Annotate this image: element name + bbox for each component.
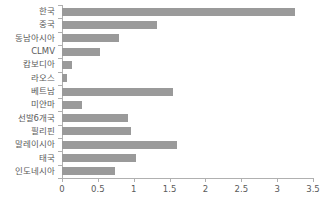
table-row (62, 112, 313, 125)
x-axis-tick (134, 178, 135, 182)
category-label: 베트남 (0, 85, 58, 98)
category-label: 선발6개국 (0, 112, 58, 125)
x-axis-tick-label: 0 (59, 184, 64, 194)
x-axis-tick-label: 0.5 (91, 184, 105, 194)
bar (62, 127, 131, 135)
bar (62, 8, 295, 16)
x-axis-tick (98, 178, 99, 182)
table-row (62, 138, 313, 151)
category-label: 중국 (0, 18, 58, 31)
bar-chart: 한국중국동남아시아CLMV캄보디아라오스베트남미얀마선발6개국필리핀말레이시아태… (0, 0, 331, 212)
y-axis-tick (58, 5, 62, 6)
x-axis-tick-label: 3 (274, 184, 279, 194)
y-axis-tick (58, 125, 62, 126)
x-axis-tick-label: 2.5 (235, 184, 249, 194)
y-axis-tick (58, 138, 62, 139)
y-axis-tick (58, 32, 62, 33)
y-axis-tick (58, 151, 62, 152)
x-axis-tick (277, 178, 278, 182)
x-axis-tick-label: 1 (131, 184, 136, 194)
y-axis-tick (58, 85, 62, 86)
y-axis-tick (58, 45, 62, 46)
category-axis-labels: 한국중국동남아시아CLMV캄보디아라오스베트남미얀마선발6개국필리핀말레이시아태… (0, 5, 58, 178)
category-label: 라오스 (0, 72, 58, 85)
table-row (62, 165, 313, 178)
table-row (62, 58, 313, 71)
category-label: 태국 (0, 151, 58, 164)
table-row (62, 32, 313, 45)
table-row (62, 85, 313, 98)
bar (62, 34, 119, 42)
category-label: 한국 (0, 5, 58, 18)
y-axis-tick (58, 72, 62, 73)
bar-rows (62, 5, 313, 178)
x-axis-tick (313, 178, 314, 182)
table-row (62, 5, 313, 18)
y-axis-tick (58, 58, 62, 59)
x-axis-tick-label: 3.5 (306, 184, 320, 194)
table-row (62, 151, 313, 164)
bar (62, 114, 128, 122)
category-label: 동남아시아 (0, 32, 58, 45)
table-row (62, 18, 313, 31)
bar (62, 101, 82, 109)
category-label: 캄보디아 (0, 58, 58, 71)
x-axis-tick (170, 178, 171, 182)
table-row (62, 72, 313, 85)
bar (62, 141, 177, 149)
y-axis-tick (58, 98, 62, 99)
table-row (62, 98, 313, 111)
x-axis-tick-label: 1.5 (163, 184, 177, 194)
bar (62, 167, 115, 175)
bar (62, 88, 173, 96)
category-label: 필리핀 (0, 125, 58, 138)
y-axis-tick (58, 111, 62, 112)
category-label: CLMV (0, 45, 58, 58)
x-axis-tick (241, 178, 242, 182)
category-label: 미얀마 (0, 98, 58, 111)
table-row (62, 45, 313, 58)
x-axis-tick (62, 178, 63, 182)
bar (62, 48, 100, 56)
x-axis-tick-label: 2 (203, 184, 208, 194)
y-axis-tick (58, 18, 62, 19)
bar (62, 154, 136, 162)
bar (62, 21, 157, 29)
bar (62, 74, 67, 82)
bar (62, 61, 72, 69)
y-axis-tick (58, 165, 62, 166)
category-label: 말레이시아 (0, 138, 58, 151)
x-axis-tick (205, 178, 206, 182)
plot-area (62, 5, 313, 178)
category-label: 인도네시아 (0, 165, 58, 178)
table-row (62, 125, 313, 138)
